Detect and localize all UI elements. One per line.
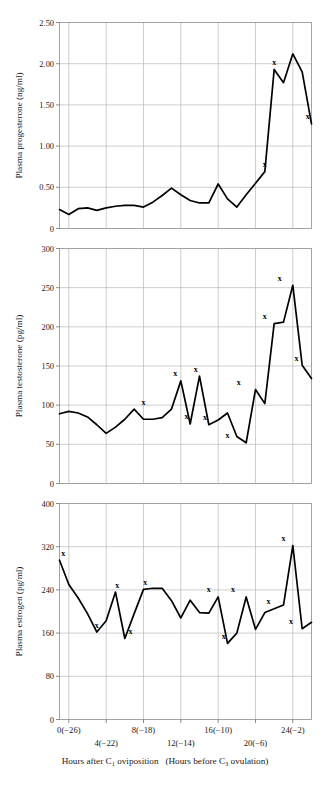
- y-tick-label: 80: [46, 672, 54, 681]
- y-tick-label: 1.50: [39, 101, 54, 110]
- y-tick-label: 2.50: [39, 19, 54, 28]
- y-tick-label: 400: [41, 500, 54, 509]
- sample-marker-icon: x: [226, 431, 230, 440]
- y-tick-label: 150: [41, 362, 54, 371]
- plot-frame: [60, 504, 312, 720]
- panel-estrogen: 080160240320400Plasma estrogen (pg/ml)xx…: [14, 500, 312, 725]
- y-tick-label: 100: [41, 401, 54, 410]
- sample-marker-icon: x: [194, 365, 198, 374]
- sample-marker-icon: x: [263, 312, 267, 321]
- panel-testosterone: 050100150200250300Plasma testosterone (p…: [14, 245, 312, 489]
- sample-marker-icon: x: [237, 378, 241, 387]
- sample-marker-icon: x: [231, 585, 235, 594]
- y-tick-label: 240: [41, 586, 54, 595]
- sample-marker-icon: x: [95, 621, 99, 630]
- y-tick-label: 320: [41, 543, 54, 552]
- sample-marker-icon: x: [295, 354, 299, 363]
- x-tick-label: 8(−18): [132, 725, 156, 735]
- data-line-progesterone: [60, 54, 312, 215]
- sample-marker-icon: x: [282, 534, 286, 543]
- y-tick-label: 0: [50, 716, 54, 725]
- y-tick-label: 200: [41, 323, 54, 332]
- sample-marker-icon: x: [128, 627, 132, 636]
- y-axis-label-testosterone: Plasma testosterone (pg/ml): [14, 315, 24, 418]
- x-tick-label: 16(−10): [204, 725, 232, 735]
- sample-marker-icon: x: [263, 160, 267, 169]
- sample-marker-icon: x: [222, 632, 226, 641]
- sample-marker-icon: x: [115, 581, 119, 590]
- x-tick-label: 12(−14): [167, 738, 195, 748]
- sample-marker-icon: x: [267, 597, 271, 606]
- y-tick-label: 0: [50, 480, 54, 489]
- x-axis-group: 0(−26)8(−18)16(−10)24(−2)4(−22)12(−14)20…: [57, 720, 305, 748]
- figure-container: 00.501.001.502.002.50Plasma progesterone…: [0, 0, 330, 790]
- sample-marker-icon: x: [306, 112, 310, 121]
- sample-marker-icon: x: [207, 585, 211, 594]
- x-tick-label: 4(−22): [94, 738, 118, 748]
- y-tick-label: 2.00: [39, 60, 54, 69]
- multi-panel-hormone-chart: 00.501.001.502.002.50Plasma progesterone…: [0, 0, 330, 790]
- x-tick-label: 24(−2): [281, 725, 305, 735]
- x-tick-label: 20(−6): [244, 738, 268, 748]
- sample-marker-icon: x: [61, 549, 65, 558]
- sample-marker-icon: x: [272, 58, 276, 67]
- sample-marker-icon: x: [173, 369, 177, 378]
- sample-marker-icon: x: [278, 274, 282, 283]
- y-tick-label: 0.50: [39, 183, 54, 192]
- sample-marker-icon: x: [203, 413, 207, 422]
- sample-marker-icon: x: [184, 412, 188, 421]
- sample-marker-icon: x: [142, 398, 146, 407]
- y-tick-label: 0: [50, 225, 54, 234]
- sample-marker-icon: x: [289, 617, 293, 626]
- panel-progesterone: 00.501.001.502.002.50Plasma progesterone…: [14, 19, 312, 234]
- y-tick-label: 160: [41, 629, 54, 638]
- y-tick-label: 300: [41, 245, 54, 254]
- x-axis-caption: Hours after C1 oviposition (Hours before…: [62, 756, 269, 767]
- y-tick-label: 50: [46, 440, 54, 449]
- sample-marker-icon: x: [143, 578, 147, 587]
- y-axis-label-progesterone: Plasma progesterone (ng/ml): [14, 72, 24, 178]
- y-tick-label: 1.00: [39, 142, 54, 151]
- x-tick-label: 0(−26): [57, 725, 81, 735]
- y-tick-label: 250: [41, 284, 54, 293]
- y-axis-label-estrogen: Plasma estrogen (pg/ml): [14, 567, 24, 657]
